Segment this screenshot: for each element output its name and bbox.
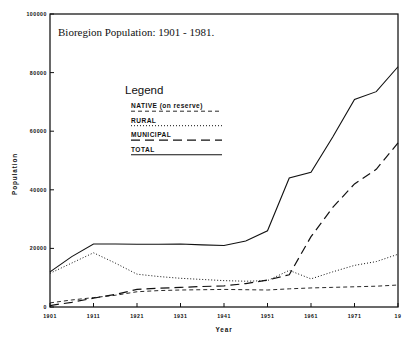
y-tick-label: 100000 bbox=[26, 11, 47, 17]
x-tick-label: 1901 bbox=[43, 313, 57, 319]
legend-entry-native-on-reserve-label: NATIVE (on reserve) bbox=[131, 102, 203, 110]
x-tick-label: 19 bbox=[395, 313, 402, 319]
y-tick-label: 80000 bbox=[30, 70, 47, 76]
x-tick-label: 1961 bbox=[304, 313, 318, 319]
series-lines bbox=[50, 67, 398, 306]
x-axis: 1901191119211931194119511961197119 bbox=[43, 303, 401, 319]
x-tick-label: 1911 bbox=[87, 313, 100, 319]
x-tick-label: 1941 bbox=[217, 313, 231, 319]
x-axis-title: Year bbox=[215, 326, 232, 333]
legend-entry-rural-label: RURAL bbox=[131, 117, 156, 124]
series-line-native-on-reserve bbox=[50, 285, 398, 303]
y-tick-label: 40000 bbox=[30, 187, 47, 193]
y-tick-label: 20000 bbox=[30, 245, 47, 251]
legend-title: Legend bbox=[125, 84, 163, 96]
legend-entry-total-label: TOTAL bbox=[131, 146, 155, 153]
legend-entries: NATIVE (on reserve)RURALMUNICIPALTOTAL bbox=[131, 102, 222, 155]
y-axis-title: Population bbox=[11, 153, 19, 195]
y-tick-label: 60000 bbox=[30, 128, 47, 134]
x-tick-label: 1931 bbox=[174, 313, 188, 319]
series-line-municipal bbox=[50, 143, 398, 306]
population-line-chart: 020000400006000080000100000 190119111921… bbox=[0, 0, 415, 339]
legend-entry-municipal-label: MUNICIPAL bbox=[131, 131, 171, 138]
series-line-total bbox=[50, 67, 398, 272]
x-tick-label: 1951 bbox=[261, 313, 275, 319]
x-tick-label: 1921 bbox=[130, 313, 144, 319]
chart-title: Bioregion Population: 1901 - 1981. bbox=[58, 26, 214, 38]
chart-container: 020000400006000080000100000 190119111921… bbox=[0, 0, 415, 339]
y-tick-label: 0 bbox=[44, 304, 47, 310]
plot-frame bbox=[50, 14, 398, 307]
legend: Legend NATIVE (on reserve)RURALMUNICIPAL… bbox=[125, 84, 222, 155]
series-line-rural bbox=[50, 253, 398, 281]
x-tick-label: 1971 bbox=[348, 313, 362, 319]
